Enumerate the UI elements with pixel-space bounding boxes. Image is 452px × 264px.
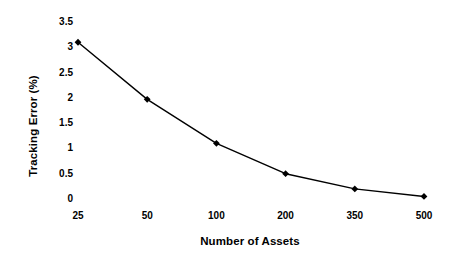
x-tick-label: 100 xyxy=(192,210,240,221)
x-tick-label: 500 xyxy=(400,210,448,221)
x-axis-tick-labels: 2550100200350500 xyxy=(0,210,452,224)
x-tick-label: 350 xyxy=(331,210,379,221)
x-tick-label: 50 xyxy=(123,210,171,221)
data-point-marker xyxy=(282,170,289,177)
data-point-marker xyxy=(213,140,220,147)
data-point-marker xyxy=(351,185,358,192)
data-markers xyxy=(75,39,428,200)
x-axis-title: Number of Assets xyxy=(74,235,426,247)
data-point-marker xyxy=(421,193,428,200)
plot-area xyxy=(0,0,452,264)
x-tick-label: 25 xyxy=(54,210,102,221)
data-line-tracking-error xyxy=(78,42,424,196)
chart-figure: Tracking Error (%) 3.532.521.510.50 2550… xyxy=(0,0,452,264)
x-tick-label: 200 xyxy=(262,210,310,221)
